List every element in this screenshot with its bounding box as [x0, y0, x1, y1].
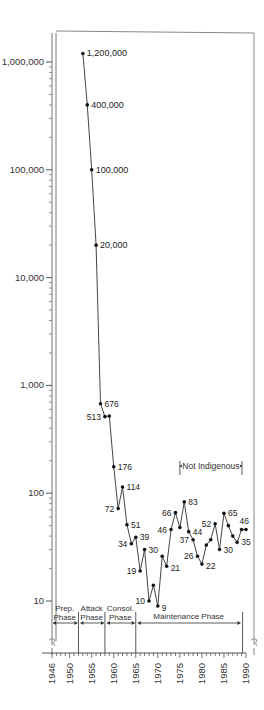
data-label: 52: [202, 519, 212, 529]
svg-text:Phase: Phase: [109, 613, 132, 622]
svg-text:Prep.: Prep.: [55, 604, 74, 613]
data-point: [178, 526, 182, 530]
data-label: 22: [206, 561, 216, 571]
data-point: [227, 524, 231, 528]
y-tick-label: 1,000: [20, 379, 44, 390]
data-label: 30: [224, 545, 234, 555]
not-indigenous-annotation: Not Indigenous: [180, 460, 242, 475]
data-label: 10: [136, 596, 146, 606]
x-tick-label: 1985: [218, 663, 229, 684]
data-point: [174, 511, 178, 515]
x-tick-label: 1990: [240, 663, 251, 684]
data-label: 21: [171, 563, 181, 573]
data-point: [187, 530, 191, 534]
data-label: 400,000: [91, 100, 124, 110]
data-label: 1,200,000: [87, 48, 127, 58]
data-point: [222, 512, 226, 516]
data-label: 513: [87, 412, 101, 422]
x-tick-label: 1975: [174, 663, 185, 684]
data-point: [138, 569, 142, 573]
y-tick-label: 1,000,000: [2, 56, 44, 67]
x-tick-label: 1970: [152, 663, 163, 684]
plot-frame: [56, 31, 257, 655]
data-point: [147, 599, 151, 603]
data-point: [182, 500, 186, 504]
malaria-cases-chart: 1,000,000100,00010,0001,00010010 1946195…: [0, 0, 264, 710]
data-point: [244, 528, 248, 532]
data-label: 100,000: [96, 165, 129, 175]
data-point: [152, 583, 156, 587]
data-point: [213, 522, 217, 526]
data-point: [116, 507, 120, 511]
data-point: [165, 564, 169, 568]
data-label: 83: [188, 497, 198, 507]
data-point: [112, 465, 116, 469]
svg-text:Phase: Phase: [80, 613, 103, 622]
data-point: [205, 543, 209, 547]
data-label: 51: [131, 520, 141, 530]
data-point: [200, 562, 204, 566]
x-tick-label: 1950: [64, 663, 75, 684]
svg-text:Attack: Attack: [81, 604, 104, 613]
data-point: [196, 554, 200, 558]
data-label: 65: [228, 508, 238, 518]
svg-text:Phase: Phase: [53, 613, 76, 622]
data-point: [235, 541, 239, 545]
svg-text:Maintenance Phase: Maintenance Phase: [153, 612, 224, 621]
data-point: [218, 548, 222, 552]
y-tick-label: 100,000: [10, 164, 44, 175]
data-point: [99, 402, 103, 406]
x-tick-label: 1960: [108, 663, 119, 684]
data-point: [90, 168, 94, 172]
data-label: 26: [184, 551, 194, 561]
data-point: [156, 604, 160, 608]
svg-text:Consol.: Consol.: [107, 604, 134, 613]
data-label: 114: [127, 482, 141, 492]
data-point: [94, 243, 98, 247]
data-label: 676: [105, 399, 119, 409]
y-axis: 1,000,000100,00010,0001,00010010: [2, 33, 55, 655]
data-labels: 1,200,000400,000100,00020,00067651317672…: [87, 48, 251, 612]
data-label: 46: [158, 525, 168, 535]
data-label: 46: [240, 516, 250, 526]
data-point: [85, 103, 89, 107]
data-label: 34: [118, 539, 128, 549]
data-label: 37: [180, 535, 190, 545]
data-point: [231, 534, 235, 538]
data-label: 66: [162, 508, 172, 518]
data-point: [160, 554, 164, 558]
data-label: 72: [105, 504, 115, 514]
data-point: [169, 528, 173, 532]
data-point: [125, 523, 129, 527]
x-tick-label: 1955: [86, 663, 97, 684]
data-label: 39: [140, 532, 150, 542]
y-tick-label: 100: [28, 487, 44, 498]
data-point: [130, 542, 134, 546]
data-point: [240, 528, 244, 532]
data-point: [143, 548, 147, 552]
data-point: [191, 538, 195, 542]
data-label: 20,000: [100, 240, 128, 250]
data-label: 19: [127, 566, 137, 576]
x-tick-label: 1965: [130, 663, 141, 684]
data-label: 176: [118, 462, 132, 472]
data-point: [121, 485, 125, 489]
y-tick-label: 10,000: [15, 272, 44, 283]
y-tick-label: 10: [33, 595, 44, 606]
data-label: 30: [149, 545, 159, 555]
data-point: [209, 538, 213, 542]
data-point: [134, 535, 138, 539]
data-point: [103, 415, 107, 419]
svg-text:Not Indigenous: Not Indigenous: [182, 461, 239, 471]
x-tick-label: 1946: [46, 663, 57, 684]
data-point: [81, 52, 85, 56]
data-label: 9: [162, 603, 167, 613]
x-tick-label: 1980: [196, 663, 207, 684]
phase-annotations: Prep.PhaseAttackPhaseConsol.PhaseMainten…: [53, 604, 243, 653]
x-axis: 1946195019551960196519701975198019851990: [46, 653, 251, 684]
data-label: 35: [241, 537, 251, 547]
data-point: [108, 414, 112, 418]
